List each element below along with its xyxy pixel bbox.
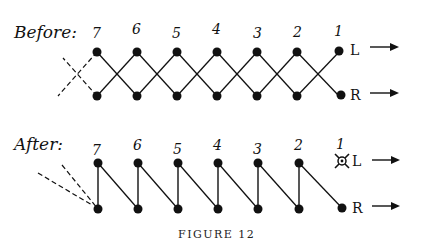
before-right-label: R — [350, 87, 361, 103]
before-dashed-lines — [58, 52, 97, 96]
after-num-6: 6 — [133, 137, 142, 153]
after-dashed-lines — [38, 165, 98, 209]
before-num-7: 7 — [92, 25, 101, 41]
after-num-2: 2 — [293, 137, 303, 153]
before-num-5: 5 — [172, 25, 181, 41]
right-arrow-icon — [370, 89, 399, 97]
before-crossing-lines — [97, 52, 339, 96]
after-num-1: 1 — [336, 136, 345, 152]
figure-caption: FIGURE 12 — [178, 228, 255, 241]
after-num-4: 4 — [212, 137, 222, 153]
right-arrow-icon — [372, 156, 400, 164]
after-left-label: L — [352, 153, 361, 169]
before-num-3: 3 — [253, 25, 262, 41]
before-num-4: 4 — [211, 21, 221, 37]
after-numbers: 7 6 5 4 3 2 1 — [92, 136, 345, 158]
before-left-label: L — [350, 42, 359, 58]
after-right-label: R — [352, 200, 363, 216]
before-numbers: 7 6 5 4 3 2 1 — [92, 21, 343, 41]
figure-12-diagram: Before: 7 6 5 4 3 2 1 L R — [0, 0, 427, 250]
after-num-7: 7 — [92, 142, 101, 158]
before-nodes — [93, 47, 346, 101]
right-arrow-icon — [370, 43, 399, 51]
before-num-1: 1 — [334, 23, 343, 39]
before-label: Before: — [13, 22, 77, 42]
removed-node-icon — [335, 154, 349, 168]
after-num-5: 5 — [173, 141, 182, 157]
after-label: After: — [12, 134, 63, 154]
after-num-3: 3 — [253, 141, 262, 157]
after-nodes — [94, 159, 347, 214]
after-diagonal-lines — [98, 163, 342, 209]
before-num-6: 6 — [132, 21, 141, 37]
before-num-2: 2 — [292, 24, 302, 40]
right-arrow-icon — [372, 202, 400, 210]
